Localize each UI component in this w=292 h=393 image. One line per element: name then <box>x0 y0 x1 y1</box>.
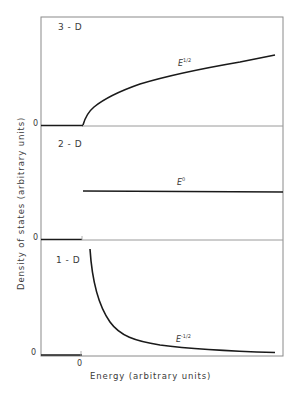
y-zero-label-3d: 0 <box>33 119 38 128</box>
curve-2d-constant <box>83 191 283 192</box>
annotation-3d-exponent: 1/2 <box>183 57 191 63</box>
y-zero-label-1d: 0 <box>31 348 36 357</box>
plot-frame <box>41 17 283 356</box>
annotation-2d: E0 <box>177 176 185 187</box>
annotation-1d-exponent: -1/2 <box>181 333 191 339</box>
panel-label-1d: 1 - D <box>56 255 80 265</box>
x-axis-label: Energy (arbitrary units) <box>90 371 211 381</box>
y-axis-label: Density of states (arbitrary units) <box>16 117 26 290</box>
annotation-1d: E-1/2 <box>176 333 191 344</box>
annotation-3d: E1/2 <box>178 57 191 68</box>
y-zero-label-2d: 0 <box>33 233 38 242</box>
density-of-states-figure <box>0 0 292 393</box>
panel-label-3d: 3 - D <box>58 22 82 32</box>
x-zero-label: 0 <box>77 359 82 368</box>
panel-label-2d: 2 - D <box>58 139 82 149</box>
annotation-2d-exponent: 0 <box>182 176 185 182</box>
